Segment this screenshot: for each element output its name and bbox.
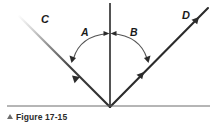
label-angle-a: A	[80, 26, 89, 38]
reflection-diagram: C D A B	[0, 0, 217, 125]
angle-a-arrowhead-ray	[70, 56, 77, 64]
figure-caption: Figure 17-15	[0, 108, 217, 125]
angle-b-arrowhead-normal	[111, 31, 117, 36]
label-angle-b: B	[130, 26, 138, 38]
figure-container: C D A B Figure 17-15	[0, 0, 217, 125]
incident-ray-line	[18, 15, 110, 107]
caption-triangle-icon	[7, 114, 13, 119]
label-incident-ray-c: C	[41, 13, 50, 25]
label-reflected-ray-d: D	[182, 9, 190, 21]
angle-a-arc	[74, 34, 109, 59]
angle-b-arrowhead-ray	[144, 56, 151, 64]
reflected-ray-line	[110, 8, 208, 107]
angle-a-arrowhead-normal	[104, 31, 110, 36]
caption-label: Figure 17-15	[16, 112, 67, 122]
